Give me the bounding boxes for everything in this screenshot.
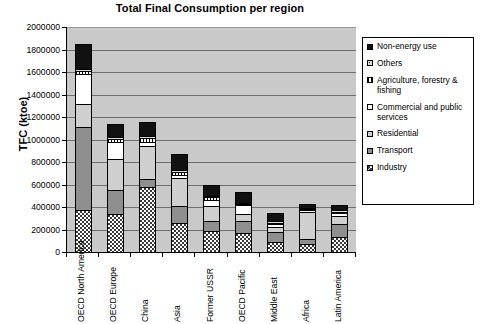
bar-segment: [139, 138, 156, 143]
bar-segment: [139, 136, 156, 138]
bar-segment: [171, 154, 188, 170]
bar-segment: [75, 74, 92, 104]
bar-stack: [139, 122, 156, 252]
legend-item[interactable]: Industry: [367, 163, 470, 173]
y-tick-label: 400000: [0, 202, 60, 212]
y-tick-label: 800000: [0, 157, 60, 167]
bar-segment: [299, 244, 316, 252]
bar-stack: [203, 185, 220, 253]
legend-swatch-icon: [367, 131, 373, 137]
bar-segment: [139, 146, 156, 179]
bar-segment: [203, 197, 220, 199]
bar-segment: [331, 210, 348, 211]
legend-item-label: Transport: [377, 146, 470, 156]
legend-item[interactable]: Transport: [367, 146, 470, 156]
gridline: [67, 27, 356, 28]
gridline: [67, 95, 356, 96]
x-tick-mark: [355, 253, 356, 257]
bar-segment: [171, 178, 188, 206]
bar-segment: [331, 205, 348, 211]
bar-segment: [203, 221, 220, 231]
bar-segment: [171, 206, 188, 223]
bar-segment: [299, 210, 316, 212]
bar-segment: [267, 213, 284, 221]
chart-container: Total Final Consumption per region TFC (…: [0, 0, 480, 324]
bar-segment: [331, 237, 348, 252]
bar-segment: [331, 212, 348, 214]
x-axis-label: OECD Pacific: [238, 258, 247, 322]
x-tick-mark: [259, 253, 260, 257]
x-axis-label: OECD Europe: [109, 258, 118, 322]
legend-swatch-icon: [367, 165, 373, 171]
legend-swatch-icon: [367, 77, 373, 83]
y-tick-label: 200000: [0, 225, 60, 235]
bar-segment: [235, 204, 252, 205]
legend-item-label: Agriculture, forestry & fishing: [377, 76, 470, 96]
legend-item[interactable]: Agriculture, forestry & fishing: [367, 76, 470, 96]
x-axis-label: Middle East: [270, 258, 279, 322]
bar-stack: [107, 124, 124, 252]
bar-segment: [107, 139, 124, 142]
bar-segment: [75, 71, 92, 74]
bar-segment: [139, 142, 156, 146]
bar-segment: [171, 172, 188, 175]
bar-stack: [75, 44, 92, 252]
legend-item[interactable]: Residential: [367, 129, 470, 139]
x-tick-mark: [194, 253, 195, 257]
x-tick-mark: [66, 253, 67, 257]
legend-item[interactable]: Others: [367, 59, 470, 69]
bar-segment: [107, 214, 124, 252]
chart-legend: Non-energy useOthersAgriculture, forestr…: [362, 37, 474, 205]
y-tick-label: 1800000: [0, 45, 60, 55]
legend-item-label: Non-energy use: [377, 42, 470, 52]
bar-segment: [75, 104, 92, 127]
bar-stack: [171, 154, 188, 252]
legend-item-label: Commercial and public services: [377, 103, 470, 123]
bar-stack: [235, 192, 252, 252]
bar-segment: [107, 190, 124, 214]
bar-segment: [171, 223, 188, 252]
y-tick-label: 1600000: [0, 67, 60, 77]
x-axis-label: China: [141, 258, 150, 322]
bar-segment: [203, 196, 220, 198]
legend-swatch-icon: [367, 104, 373, 110]
x-axis-label: Asia: [173, 258, 182, 322]
legend-item[interactable]: Non-energy use: [367, 42, 470, 52]
y-tick-label: 1400000: [0, 90, 60, 100]
bar-segment: [235, 192, 252, 203]
bar-segment: [267, 221, 284, 223]
x-tick-mark: [227, 253, 228, 257]
legend-item[interactable]: Commercial and public services: [367, 103, 470, 123]
bar-segment: [235, 203, 252, 204]
x-tick-mark: [291, 253, 292, 257]
bar-segment: [107, 159, 124, 190]
bar-segment: [203, 206, 220, 221]
bar-segment: [267, 223, 284, 224]
bar-segment: [75, 127, 92, 210]
legend-swatch-icon: [367, 148, 373, 154]
bar-segment: [235, 205, 252, 213]
x-axis-label: OECD North America: [77, 258, 86, 322]
x-tick-mark: [162, 253, 163, 257]
bar-segment: [75, 44, 92, 69]
x-tick-mark: [323, 253, 324, 257]
x-axis-label: Former USSR: [206, 258, 215, 322]
bar-stack: [267, 213, 284, 252]
bar-segment: [139, 179, 156, 187]
bar-segment: [267, 232, 284, 242]
gridline: [67, 72, 356, 73]
x-tick-mark: [98, 253, 99, 257]
y-tick-label: 0: [0, 247, 60, 257]
bar-segment: [171, 170, 188, 172]
bar-segment: [235, 214, 252, 221]
x-axis-label: Africa: [302, 258, 311, 322]
bar-segment: [267, 242, 284, 252]
bar-segment: [139, 187, 156, 252]
plot-area: [66, 27, 356, 253]
bar-segment: [267, 227, 284, 232]
bar-segment: [299, 204, 316, 208]
bar-segment: [107, 142, 124, 159]
y-tick-label: 2000000: [0, 22, 60, 32]
legend-swatch-icon: [367, 60, 373, 66]
bar-segment: [235, 221, 252, 234]
